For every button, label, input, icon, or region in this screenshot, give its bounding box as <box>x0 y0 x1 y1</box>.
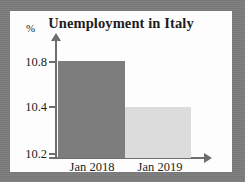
bar-jan-2019 <box>125 107 191 158</box>
y-tick-mark-10-4 <box>49 106 56 108</box>
x-tick-label-jan-2018: Jan 2018 <box>54 160 130 175</box>
x-axis-arrow-icon <box>204 153 212 163</box>
y-tick-mark-10-8 <box>49 61 56 63</box>
chart-card: Unemployment in Italy % 10.8 10.4 10.2 J… <box>10 11 232 172</box>
y-tick-label-10-8: 10.8 <box>13 55 47 70</box>
screenshot-root: Unemployment in Italy % 10.8 10.4 10.2 J… <box>0 0 245 182</box>
y-axis-line <box>55 39 57 158</box>
y-tick-mark-10-2 <box>49 153 56 155</box>
y-tick-label-10-4: 10.4 <box>13 100 47 115</box>
bar-jan-2018 <box>58 61 125 158</box>
x-tick-label-jan-2019: Jan 2019 <box>122 160 198 175</box>
y-tick-label-10-2: 10.2 <box>13 147 47 162</box>
y-axis-unit-label: % <box>26 22 35 34</box>
plot-area: % 10.8 10.4 10.2 Jan 2018 Jan 2019 <box>10 11 232 172</box>
